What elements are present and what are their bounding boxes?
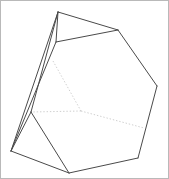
figure-background <box>1 1 168 178</box>
figure-frame <box>0 0 169 179</box>
polyhedron-wireframe-svg <box>1 1 168 178</box>
